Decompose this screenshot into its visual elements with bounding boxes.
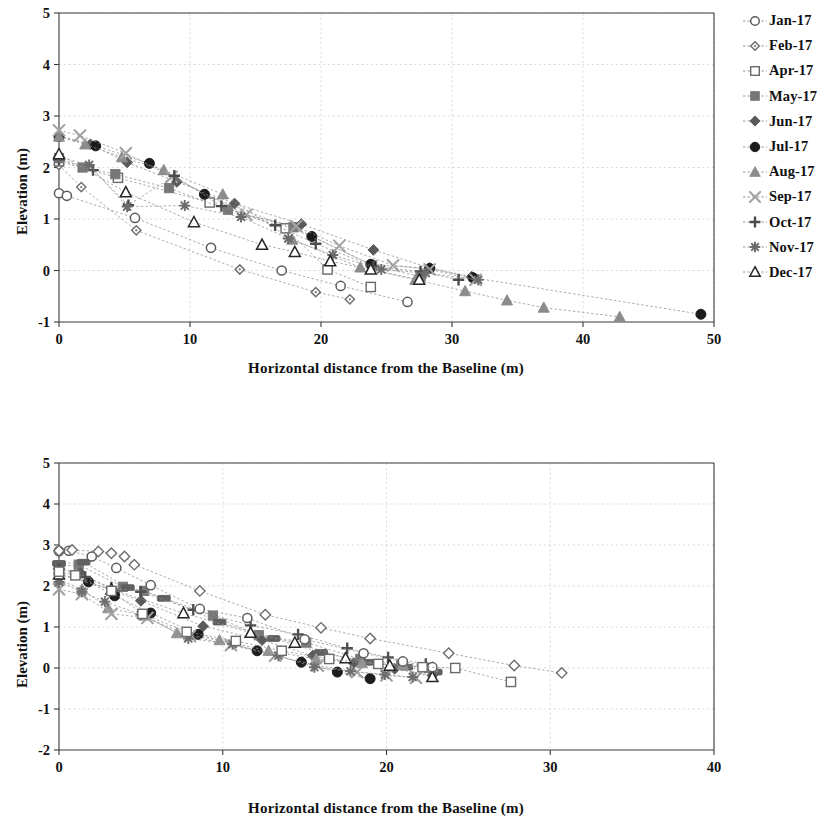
diamond-filled-icon [742, 112, 768, 130]
x-tick-label: 50 [707, 331, 722, 347]
chart-1-y-axis-title: Elevation (m) [14, 148, 31, 235]
chart-panel-2: -2-1012345010203040 Horizontal distance … [0, 428, 835, 828]
legend-item-label: Oct-17 [768, 214, 811, 231]
y-tick-label: -1 [38, 701, 50, 717]
y-tick-label: 4 [43, 57, 50, 73]
x-tick-label: 30 [445, 331, 460, 347]
legend-item-label: Jun-17 [768, 113, 812, 130]
y-tick-label: 2 [43, 578, 50, 594]
legend-item-label: Jul-17 [768, 138, 808, 155]
legend-item-label: Jan-17 [768, 12, 812, 29]
x-tick-label: 10 [183, 331, 198, 347]
y-tick-label: 3 [43, 537, 50, 553]
legend-item-label: Apr-17 [768, 62, 813, 79]
triangle-open-icon [742, 263, 768, 281]
y-tick-label: -2 [38, 742, 50, 758]
legend-item-label: Dec-17 [768, 264, 812, 281]
y-tick-label: 1 [43, 619, 50, 635]
chart-panel-1: -101234501020304050 Horizontal distance … [0, 0, 835, 400]
x-tick-label: 40 [707, 759, 722, 775]
axis-ticks: -101234501020304050 [38, 5, 721, 347]
series-apr-17 [54, 157, 375, 292]
star-icon [742, 238, 768, 256]
x-tick-label: 30 [543, 759, 558, 775]
chart-1-x-axis-title: Horizontal distance from the Baseline (m… [58, 360, 714, 377]
legend-item-feb-17[interactable]: Feb-17 [742, 33, 817, 58]
x-tick-label: 20 [379, 759, 394, 775]
legend-item-label: Aug-17 [768, 163, 815, 180]
y-tick-label: 0 [43, 263, 50, 279]
legend-item-jul-17[interactable]: Jul-17 [742, 134, 817, 159]
legend-item-label: May-17 [768, 88, 817, 105]
chart-1-plot: -101234501020304050 [0, 0, 735, 350]
legend-item-jan-17[interactable]: Jan-17 [742, 8, 817, 33]
y-tick-label: 5 [43, 455, 50, 471]
circle-open-icon [742, 12, 768, 30]
figure-page: -101234501020304050 Horizontal distance … [0, 0, 835, 828]
y-tick-label: 4 [43, 496, 50, 512]
x-tick-label: 40 [576, 331, 591, 347]
legend-item-oct-17[interactable]: Oct-17 [742, 210, 817, 235]
legend-item-dec-17[interactable]: Dec-17 [742, 260, 817, 285]
series-aug-17 [54, 131, 626, 321]
series-jul-17 [54, 132, 706, 320]
legend-item-apr-17[interactable]: Apr-17 [742, 58, 817, 83]
chart-2-x-axis-title: Horizontal distance from the Baseline (m… [58, 800, 714, 817]
circle-filled-icon [742, 138, 768, 156]
legend-item-may-17[interactable]: May-17 [742, 84, 817, 109]
x-tick-label: 0 [55, 759, 62, 775]
chart-2-plot: -2-1012345010203040 [0, 448, 735, 778]
y-tick-label: 5 [43, 5, 50, 21]
x-tick-label: 10 [216, 759, 231, 775]
legend-item-aug-17[interactable]: Aug-17 [742, 159, 817, 184]
grid-lines [59, 463, 714, 750]
legend-item-label: Nov-17 [768, 239, 814, 256]
legend-item-sep-17[interactable]: Sep-17 [742, 184, 817, 209]
plus-icon [742, 213, 768, 231]
axis-frame [59, 463, 714, 750]
square-filled-icon [742, 87, 768, 105]
chart2-svg: -2-1012345010203040 [0, 448, 735, 778]
legend-item-jun-17[interactable]: Jun-17 [742, 109, 817, 134]
y-tick-label: 0 [43, 660, 50, 676]
x-tick-label: 0 [55, 331, 62, 347]
y-tick-label: 2 [43, 160, 50, 176]
chart1-svg: -101234501020304050 [0, 0, 735, 350]
y-tick-label: 1 [43, 211, 50, 227]
diamond-small-icon [742, 37, 768, 55]
triangle-filled-icon [742, 163, 768, 181]
legend-item-label: Sep-17 [768, 188, 812, 205]
legend-item-label: Feb-17 [768, 37, 812, 54]
square-open-icon [742, 62, 768, 80]
y-tick-label: -1 [38, 314, 50, 330]
y-tick-label: 3 [43, 108, 50, 124]
x-tick-label: 20 [314, 331, 329, 347]
chart-1-legend: Jan-17Feb-17Apr-17May-17Jun-17Jul-17Aug-… [742, 8, 817, 285]
series-sep-17 [54, 125, 481, 285]
legend-item-nov-17[interactable]: Nov-17 [742, 235, 817, 260]
chart-2-y-axis-title: Elevation (m) [14, 601, 31, 688]
x-cross-icon [742, 188, 768, 206]
